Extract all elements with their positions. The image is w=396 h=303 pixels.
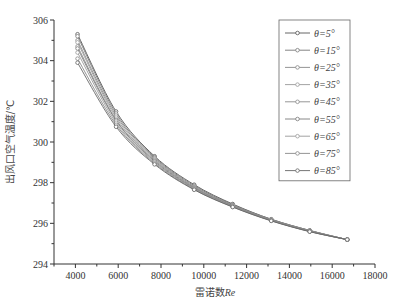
data-point-marker xyxy=(76,34,80,38)
legend: θ=5°θ=15°θ=25°θ=35°θ=45°θ=55°θ=65°θ=75°θ… xyxy=(279,20,350,181)
data-point-marker xyxy=(308,230,312,234)
y-tick-label: 304 xyxy=(33,55,48,66)
y-tick-label: 300 xyxy=(33,137,48,148)
data-point-marker xyxy=(76,61,80,65)
line-chart: 4000600080001000012000140001600018000 29… xyxy=(0,0,396,303)
legend-marker-icon xyxy=(296,31,300,35)
x-tick-label: 12000 xyxy=(234,270,259,281)
legend-marker-icon xyxy=(296,152,300,156)
legend-marker-icon xyxy=(296,169,300,173)
y-tick-label: 298 xyxy=(33,177,48,188)
y-tick-label: 294 xyxy=(33,259,48,270)
data-point-marker xyxy=(269,219,273,223)
x-tick-label: 4000 xyxy=(65,270,85,281)
legend-label: θ=65° xyxy=(314,131,340,142)
data-point-marker xyxy=(76,47,80,51)
data-point-marker xyxy=(76,51,80,55)
legend-label: θ=5° xyxy=(314,28,335,39)
x-tick-label: 10000 xyxy=(191,270,216,281)
legend-label: θ=75° xyxy=(314,148,340,159)
data-point-marker xyxy=(231,205,235,209)
legend-label: θ=15° xyxy=(314,45,340,56)
legend-marker-icon xyxy=(296,134,300,138)
legend-marker-icon xyxy=(296,48,300,52)
legend-marker-icon xyxy=(296,100,300,104)
legend-label: θ=25° xyxy=(314,62,340,73)
data-point-marker xyxy=(76,41,80,45)
legend-label: θ=45° xyxy=(314,96,340,107)
y-tick-label: 296 xyxy=(33,218,48,229)
legend-label: θ=85° xyxy=(314,165,340,176)
x-tick-label: 16000 xyxy=(320,270,345,281)
x-tick-label: 18000 xyxy=(363,270,388,281)
data-point-marker xyxy=(153,163,157,167)
y-axis: 294296298300302304306 xyxy=(33,15,54,270)
y-tick-label: 302 xyxy=(33,96,48,107)
y-tick-label: 306 xyxy=(33,15,48,26)
data-point-marker xyxy=(76,57,80,61)
data-point-marker xyxy=(114,125,118,129)
legend-marker-icon xyxy=(296,83,300,87)
x-tick-label: 6000 xyxy=(108,270,128,281)
x-tick-label: 8000 xyxy=(151,270,171,281)
data-point-marker xyxy=(192,188,196,192)
x-tick-label: 14000 xyxy=(277,270,302,281)
y-axis-title: 出风口空气温度/℃ xyxy=(4,100,16,185)
legend-marker-icon xyxy=(296,117,300,121)
legend-marker-icon xyxy=(296,66,300,70)
legend-label: θ=55° xyxy=(314,114,340,125)
x-axis: 4000600080001000012000140001600018000 xyxy=(54,264,388,281)
legend-label: θ=35° xyxy=(314,79,340,90)
x-axis-title: 雷诺数Re xyxy=(195,286,236,298)
data-point-marker xyxy=(345,238,349,242)
